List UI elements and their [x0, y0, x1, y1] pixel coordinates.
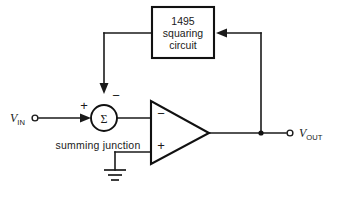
arrowhead-into-squaring-block: [216, 29, 227, 38]
summing-junction-caption: summing junction: [56, 139, 141, 151]
input-terminal-node[interactable]: [32, 115, 38, 121]
summing-junction-minus-sign: −: [112, 88, 120, 103]
input-voltage-subscript: IN: [17, 118, 25, 127]
circuit-diagram-canvas: 1495 squaring circuit Σ + − summing junc…: [0, 0, 337, 197]
arrowhead-into-summing-junction-feedback: [100, 83, 109, 94]
output-voltage-label: VOUT: [299, 126, 323, 142]
summing-junction-plus-sign: +: [80, 98, 88, 113]
ground-icon: [104, 170, 126, 180]
opamp-inverting-input-label: −: [157, 106, 165, 121]
input-voltage-label: VIN: [10, 111, 25, 127]
squaring-block-line1: 1495: [171, 15, 195, 27]
output-tap-junction-dot: [258, 130, 263, 135]
output-terminal-node[interactable]: [287, 130, 293, 136]
summing-junction-sigma: Σ: [101, 112, 108, 126]
output-voltage-subscript: OUT: [306, 133, 322, 142]
circuit-diagram: 1495 squaring circuit Σ + − summing junc…: [0, 0, 337, 197]
opamp-noninverting-input-label: +: [157, 138, 165, 153]
squaring-block-line2: squaring: [163, 27, 203, 39]
arrowhead-input-into-summing-junction: [80, 114, 91, 123]
squaring-block-line3: circuit: [169, 39, 197, 51]
